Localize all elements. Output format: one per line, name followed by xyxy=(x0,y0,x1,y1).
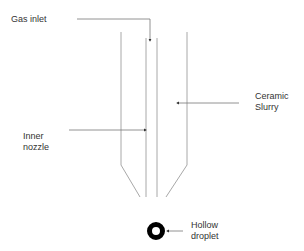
outer-nozzle-right-wall xyxy=(166,32,187,197)
ceramic-slurry-label: Ceramic Slurry xyxy=(255,91,289,113)
inner-nozzle-label: Inner nozzle xyxy=(23,131,49,153)
hollow-droplet-label: Hollow droplet xyxy=(191,220,219,242)
gas-inlet-arrow xyxy=(77,19,150,41)
nozzle-diagram xyxy=(0,0,304,251)
outer-nozzle-left-wall xyxy=(121,32,140,197)
hollow-droplet-shape xyxy=(150,225,163,238)
gas-inlet-label: Gas inlet xyxy=(11,14,47,25)
